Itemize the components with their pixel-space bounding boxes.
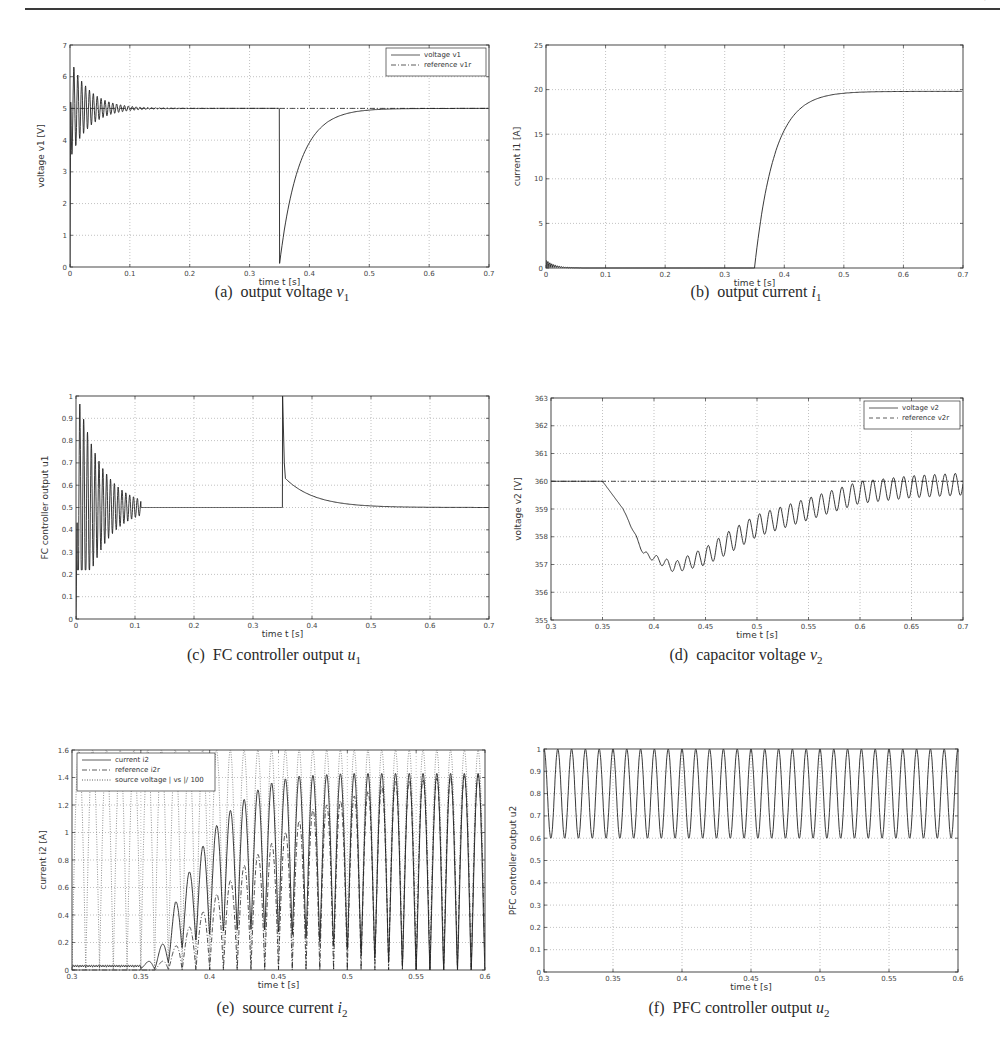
y-tick-label: 0.5	[530, 857, 541, 865]
y-tick-label: 0.7	[530, 812, 541, 820]
caption-d: (d) capacitor voltage v2	[626, 646, 866, 666]
y-tick-label: 0.6	[530, 835, 542, 843]
x-axis-label: time t [s]	[730, 982, 771, 992]
y-tick-label: 0.2	[530, 924, 541, 932]
y-tick-label: 0.4	[530, 879, 542, 887]
caption-a: (a) output voltage v1	[172, 283, 392, 303]
x-tick-label: 0.55	[881, 975, 897, 983]
y-tick-label: 0.1	[530, 946, 541, 954]
x-tick-label: 0.4	[676, 975, 688, 983]
y-tick-label: 0	[537, 969, 541, 977]
chart-svg-f: 0.30.350.40.450.50.550.600.10.20.30.40.5…	[0, 0, 1002, 1064]
caption-e: (e) source current i2	[162, 999, 402, 1019]
x-tick-label: 0.35	[605, 975, 621, 983]
x-tick-label: 0.6	[952, 975, 964, 983]
grid-lines	[544, 749, 958, 972]
y-tick-label: 0.3	[530, 902, 541, 910]
caption-c: (c) FC controller output u1	[144, 646, 404, 666]
caption-b: (b) output current i1	[646, 283, 866, 303]
caption-f: (f) PFC controller output u2	[604, 999, 874, 1019]
y-tick-label: 0.9	[530, 768, 541, 776]
x-tick-label: 0.5	[814, 975, 825, 983]
y-tick-label: 1	[537, 746, 541, 754]
y-tick-label: 0.8	[530, 790, 541, 798]
y-axis-label: PFC controller output u2	[508, 806, 518, 916]
